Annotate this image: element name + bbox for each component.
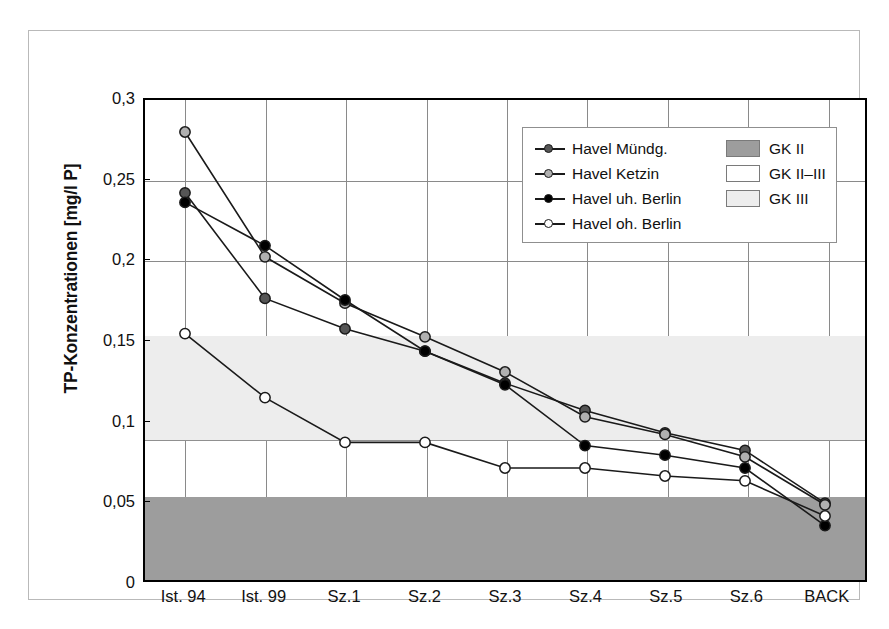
data-point-havel-ketzin[interactable] <box>260 252 270 262</box>
legend-dot-icon <box>544 169 553 178</box>
y-tick-label: 0,25 <box>43 169 135 188</box>
legend-item-series[interactable]: Havel uh. Berlin <box>535 186 725 211</box>
y-tick-mark <box>143 421 150 422</box>
data-point-havel-oh-berlin[interactable] <box>340 437 350 447</box>
legend-dot-icon <box>544 144 553 153</box>
legend-series-label: Havel oh. Berlin <box>572 215 681 233</box>
y-tick-label: 0,2 <box>43 250 135 269</box>
data-point-havel-oh-berlin[interactable] <box>180 328 190 338</box>
y-tick-mark <box>143 179 150 180</box>
legend-swatch-icon <box>726 140 760 157</box>
y-tick-mark <box>143 259 150 260</box>
legend-item-series[interactable]: Havel Mündg. <box>535 136 725 161</box>
data-point-havel-ketzin[interactable] <box>660 429 670 439</box>
data-point-havel-ketzin[interactable] <box>740 452 750 462</box>
x-axis-tick-labels: Ist. 94Ist. 99Sz.1Sz.2Sz.3Sz.4Sz.5Sz.6BA… <box>143 587 867 621</box>
legend-line-marker-icon <box>535 218 565 230</box>
figure-canvas: TP-Konzentrationen [mg/l P] 00,050,10,15… <box>0 0 889 629</box>
y-axis-tick-labels: 00,050,10,150,20,250,3 <box>37 98 135 582</box>
legend-item-series[interactable]: Havel oh. Berlin <box>535 211 725 236</box>
legend-band-label: GK III <box>769 190 809 208</box>
data-point-havel-uh-berlin[interactable] <box>580 440 590 450</box>
legend-bands-group: GK IIGK II–IIIGK III <box>726 136 836 211</box>
legend-series-label: Havel Ketzin <box>572 165 659 183</box>
y-tick-label: 0,15 <box>43 331 135 350</box>
data-point-havel-oh-berlin[interactable] <box>660 471 670 481</box>
legend-dot-icon <box>544 219 553 228</box>
data-point-havel-m-ndg[interactable] <box>260 293 270 303</box>
data-point-havel-uh-berlin[interactable] <box>420 346 430 356</box>
data-point-havel-oh-berlin[interactable] <box>500 463 510 473</box>
y-tick-mark <box>143 501 150 502</box>
data-point-havel-uh-berlin[interactable] <box>820 520 830 530</box>
data-point-havel-m-ndg[interactable] <box>340 324 350 334</box>
y-tick-label: 0,05 <box>43 492 135 511</box>
data-point-havel-uh-berlin[interactable] <box>660 450 670 460</box>
legend-line-marker-icon <box>535 143 565 155</box>
y-tick-label: 0 <box>43 573 135 592</box>
legend-line-marker-icon <box>535 193 565 205</box>
legend-swatch-icon <box>726 190 760 207</box>
legend-swatch-icon <box>726 165 760 182</box>
x-tick-label: BACK <box>772 587 882 606</box>
data-point-havel-ketzin[interactable] <box>180 127 190 137</box>
legend-item-band[interactable]: GK III <box>726 186 836 211</box>
series-line-havel-uh-berlin <box>185 202 825 525</box>
chart-legend: Havel Mündg.Havel KetzinHavel uh. Berlin… <box>522 127 837 243</box>
data-point-havel-ketzin[interactable] <box>820 500 830 510</box>
data-point-havel-ketzin[interactable] <box>500 367 510 377</box>
legend-line-marker-icon <box>535 168 565 180</box>
data-point-havel-uh-berlin[interactable] <box>260 240 270 250</box>
data-point-havel-oh-berlin[interactable] <box>740 476 750 486</box>
series-line-havel-oh-berlin <box>185 334 825 516</box>
data-point-havel-ketzin[interactable] <box>580 412 590 422</box>
legend-series-label: Havel uh. Berlin <box>572 190 681 208</box>
data-point-havel-uh-berlin[interactable] <box>340 295 350 305</box>
data-point-havel-uh-berlin[interactable] <box>740 463 750 473</box>
figure-outer-frame: TP-Konzentrationen [mg/l P] 00,050,10,15… <box>28 30 860 600</box>
legend-item-series[interactable]: Havel Ketzin <box>535 161 725 186</box>
y-tick-label: 0,1 <box>43 411 135 430</box>
legend-series-label: Havel Mündg. <box>572 140 668 158</box>
y-tick-label: 0,3 <box>43 89 135 108</box>
legend-series-group: Havel Mündg.Havel KetzinHavel uh. Berlin… <box>535 136 725 236</box>
data-point-havel-uh-berlin[interactable] <box>180 197 190 207</box>
data-point-havel-oh-berlin[interactable] <box>820 511 830 521</box>
data-point-havel-m-ndg[interactable] <box>180 188 190 198</box>
data-point-havel-oh-berlin[interactable] <box>580 463 590 473</box>
legend-band-label: GK II <box>769 140 804 158</box>
data-point-havel-ketzin[interactable] <box>420 332 430 342</box>
y-tick-mark <box>143 340 150 341</box>
data-point-havel-uh-berlin[interactable] <box>500 380 510 390</box>
legend-dot-icon <box>544 194 553 203</box>
data-point-havel-oh-berlin[interactable] <box>260 392 270 402</box>
legend-band-label: GK II–III <box>769 165 826 183</box>
data-point-havel-oh-berlin[interactable] <box>420 437 430 447</box>
legend-item-band[interactable]: GK II <box>726 136 836 161</box>
legend-item-band[interactable]: GK II–III <box>726 161 836 186</box>
